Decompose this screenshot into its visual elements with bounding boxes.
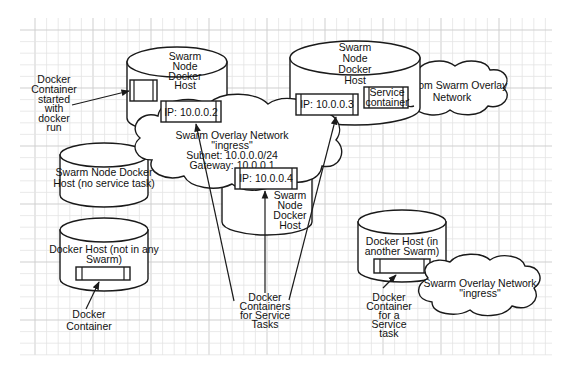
host-top-left-label-4: Host bbox=[174, 79, 196, 91]
callout-docker-run: Docker Container started with docker run bbox=[31, 73, 129, 133]
host-right-bottom-label-2: another Swarm) bbox=[365, 245, 440, 257]
host-left-bottom-label-2: Swarm) bbox=[86, 253, 122, 265]
callout-docker-run-line-6: run bbox=[46, 121, 61, 133]
ip-10-0-0-4-label: IP: 10.0.0.4 bbox=[239, 172, 293, 184]
ingress-other-swarm-cloud: Swarm Overlay Network "ingress" bbox=[419, 254, 540, 315]
container-ip-10-0-0-4: IP: 10.0.0.4 bbox=[235, 168, 297, 189]
container-ip-10-0-0-3: IP: 10.0.0.3 bbox=[296, 94, 358, 115]
swarm-network-diagram: Custom Swarm Overlay Network Swarm Node … bbox=[0, 0, 573, 371]
ip-10-0-0-2-label: IP: 10.0.0.2 bbox=[164, 106, 218, 118]
host-top-right-label-4: Host bbox=[344, 74, 366, 86]
callout-docker-container-line-2: Container bbox=[66, 320, 112, 332]
service-container-label-2: container bbox=[365, 96, 409, 108]
ingress-other-label-2: "ingress" bbox=[459, 287, 501, 299]
plain-docker-container bbox=[76, 267, 130, 280]
callout-service-tasks-line-4: Tasks bbox=[252, 318, 279, 330]
callout-docker-container-line-1: Docker bbox=[72, 308, 106, 320]
service-task-container-other-swarm bbox=[374, 259, 430, 273]
custom-overlay-label-line-2: Network bbox=[433, 91, 472, 103]
callout-service-task-other: Docker Container for a Service task bbox=[366, 275, 412, 339]
callout-other-line-5: task bbox=[379, 327, 399, 339]
host-left-bottom: Docker Host (not in any Swarm) bbox=[49, 218, 159, 291]
arrow-icon bbox=[72, 91, 129, 105]
container-ip-10-0-0-2: IP: 10.0.0.2 bbox=[161, 101, 221, 122]
ip-10-0-0-3-label: IP: 10.0.0.3 bbox=[300, 98, 354, 110]
host-center-label-4: Host bbox=[279, 219, 301, 231]
service-container: Service container bbox=[364, 86, 409, 108]
host-left-middle-label-2: Host (no service task) bbox=[53, 177, 155, 189]
